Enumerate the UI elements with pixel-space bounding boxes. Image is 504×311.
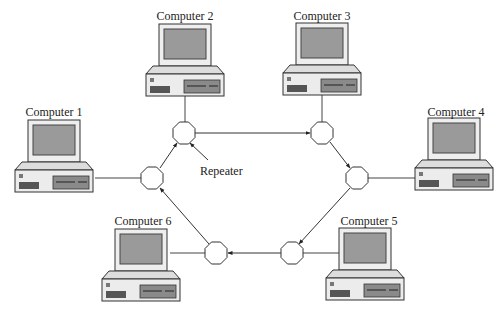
computer-icon <box>15 120 93 192</box>
repeater-2 <box>173 122 195 144</box>
computer-label: Computer 3 <box>294 9 351 23</box>
computer-label: Computer 5 <box>341 214 398 228</box>
computer-label: Computer 6 <box>115 214 172 228</box>
computer-icon <box>146 24 224 96</box>
computer-label: Computer 1 <box>26 105 83 119</box>
computer-6: Computer 6 <box>102 214 180 301</box>
repeater-1 <box>141 167 163 189</box>
computer-label: Computer 2 <box>157 9 214 23</box>
computer-icon <box>326 228 404 300</box>
computer-3: Computer 3 <box>283 9 361 95</box>
computer-label: Computer 4 <box>428 105 485 119</box>
repeater-3 <box>311 122 333 144</box>
computer-1: Computer 1 <box>15 105 93 192</box>
repeater-4 <box>346 167 368 189</box>
computer-2: Computer 2 <box>146 9 224 96</box>
repeater-label: Repeater <box>200 164 243 178</box>
computer-4: Computer 4 <box>415 105 493 190</box>
ring-network-diagram: Repeater Computer 1 Computer 2 Computer … <box>0 0 504 311</box>
computer-icon <box>283 23 361 95</box>
repeater-6 <box>205 242 227 264</box>
computer-5: Computer 5 <box>326 214 404 300</box>
link-r1-r2 <box>160 143 177 168</box>
computer-icon <box>415 118 493 190</box>
repeater-callout-line <box>190 143 208 160</box>
repeater-5 <box>281 242 303 264</box>
link-r3-r4 <box>330 142 350 168</box>
ring-links <box>160 133 350 253</box>
computer-icon <box>102 229 180 301</box>
